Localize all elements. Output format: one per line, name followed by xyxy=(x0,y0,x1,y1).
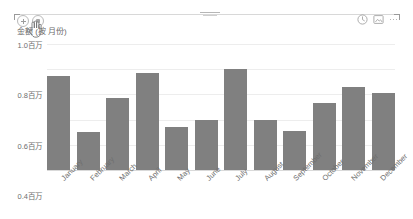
bar-column[interactable] xyxy=(106,44,129,170)
bar-july[interactable] xyxy=(224,69,247,170)
y-axis-tick-label: 1.0百万 xyxy=(18,39,42,50)
y-axis-tick-label: 0.6百万 xyxy=(18,139,42,150)
bar-april[interactable] xyxy=(136,73,159,170)
bar-may[interactable] xyxy=(165,127,188,170)
bar-january[interactable] xyxy=(47,76,70,171)
export-image-icon[interactable] xyxy=(373,14,384,25)
chart-visual-container: 金额 (按 月份) 1.0百万0.8百万0.6百万0.4百万0.2百万0.0百万… xyxy=(0,0,413,219)
visual-toolbar-right xyxy=(357,14,398,25)
drag-handle[interactable] xyxy=(197,10,223,18)
bar-column[interactable] xyxy=(77,44,100,170)
bar-column[interactable] xyxy=(283,44,306,170)
bar-june[interactable] xyxy=(195,120,218,170)
more-options-icon[interactable] xyxy=(390,19,398,21)
bar-column[interactable] xyxy=(372,44,395,170)
bar-column[interactable] xyxy=(254,44,277,170)
bar-column[interactable] xyxy=(342,44,365,170)
bar-november[interactable] xyxy=(342,87,365,170)
plot-area: 1.0百万0.8百万0.6百万0.4百万0.2百万0.0百万 xyxy=(47,44,395,170)
y-axis-tick-label: 0.4百万 xyxy=(18,190,42,201)
bar-column[interactable] xyxy=(224,44,247,170)
bar-column[interactable] xyxy=(136,44,159,170)
y-axis-tick-label: 0.8百万 xyxy=(18,89,42,100)
bar-column[interactable] xyxy=(47,44,70,170)
category-axis-labels: JanuaryFebruaryMarchAprilMayJuneJulyAugu… xyxy=(47,172,395,214)
bar-series xyxy=(47,44,395,170)
focus-mode-icon[interactable] xyxy=(357,14,368,25)
bar-august[interactable] xyxy=(254,120,277,170)
bar-column[interactable] xyxy=(195,44,218,170)
bar-column[interactable] xyxy=(165,44,188,170)
value-axis-title: 金额 (按 月份) xyxy=(17,25,67,36)
